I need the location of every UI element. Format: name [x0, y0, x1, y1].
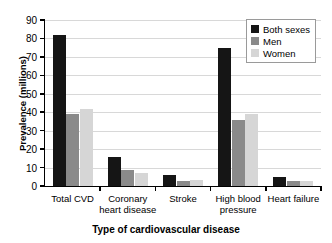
- x-axis-title: Type of cardiovascular disease: [0, 224, 332, 235]
- bar: [287, 181, 300, 186]
- y-axis-tick-label: 70: [26, 51, 37, 62]
- legend-item: Men: [251, 35, 310, 47]
- x-axis-tick-label: Stroke: [169, 193, 196, 204]
- legend-swatch-icon: [251, 49, 259, 57]
- bar: [135, 173, 148, 186]
- bar: [121, 170, 134, 186]
- bar: [163, 175, 176, 186]
- y-axis-tick: [40, 75, 45, 77]
- x-axis-tick: [155, 186, 157, 191]
- y-axis-tick: [40, 56, 45, 58]
- bar: [53, 35, 66, 186]
- legend-item: Women: [251, 47, 310, 59]
- legend-swatch-icon: [251, 25, 259, 33]
- y-axis-tick: [40, 111, 45, 113]
- x-axis-tick-label: Heart failure: [268, 193, 320, 204]
- y-axis-tick: [40, 93, 45, 95]
- bar: [80, 109, 93, 186]
- y-axis-title: Prevalence (millions): [17, 24, 28, 184]
- x-axis-tick-label: Total CVD: [51, 193, 94, 204]
- legend-item-label: Women: [263, 48, 296, 59]
- x-axis-tick-label: Coronaryheart disease: [99, 193, 156, 215]
- y-axis-tick: [40, 38, 45, 40]
- bar: [177, 181, 190, 186]
- x-axis-tick: [265, 186, 267, 191]
- legend-swatch-icon: [251, 37, 259, 45]
- bar: [66, 114, 79, 186]
- y-axis-tick-label: 0: [31, 181, 37, 192]
- bar: [108, 157, 121, 187]
- bar: [218, 48, 231, 186]
- bar: [245, 114, 258, 186]
- y-axis-tick: [40, 19, 45, 21]
- bar-group: [108, 20, 148, 186]
- bar-group: [163, 20, 203, 186]
- y-axis-tick: [40, 185, 45, 187]
- x-axis-tick-label: High bloodpressure: [215, 193, 260, 215]
- y-axis-tick: [40, 167, 45, 169]
- legend-item-label: Both sexes: [263, 24, 310, 35]
- y-axis-tick: [40, 130, 45, 132]
- bar: [273, 177, 286, 186]
- y-axis-tick-label: 20: [26, 144, 37, 155]
- x-axis-tick: [99, 186, 101, 191]
- y-axis-tick-label: 40: [26, 107, 37, 118]
- x-axis-tick: [320, 186, 322, 191]
- y-axis-tick: [40, 148, 45, 150]
- bar-chart: Prevalence (millions) 010203040506070809…: [0, 0, 332, 243]
- y-axis-tick-label: 50: [26, 88, 37, 99]
- chart-legend: Both sexesMenWomen: [246, 19, 316, 63]
- x-axis-tick: [210, 186, 212, 191]
- y-axis-tick-label: 10: [26, 162, 37, 173]
- y-axis-tick-label: 30: [26, 125, 37, 136]
- bar: [190, 180, 203, 186]
- y-axis-tick-label: 80: [26, 33, 37, 44]
- y-axis-tick-label: 60: [26, 70, 37, 81]
- legend-item: Both sexes: [251, 23, 310, 35]
- y-axis-tick-label: 90: [26, 15, 37, 26]
- bar: [232, 120, 245, 186]
- legend-item-label: Men: [263, 36, 281, 47]
- bar: [300, 181, 313, 186]
- bar-group: [53, 20, 93, 186]
